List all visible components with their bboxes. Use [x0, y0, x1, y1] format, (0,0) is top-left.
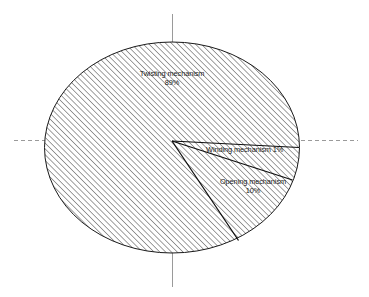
pie-chart-canvas [0, 0, 369, 297]
pie-chart-figure: Twisting mechanism 89% Winding mechanism… [0, 0, 369, 297]
pie-label-opening-name: Opening mechanism [220, 177, 286, 186]
pie-label-opening-mechanism: Opening mechanism 10% [205, 177, 301, 196]
pie-label-opening-value: 10% [205, 186, 301, 195]
pie-label-winding-name: Winding mechanism 1% [206, 145, 283, 154]
pie-label-twisting-name: Twisting mechanism [140, 69, 205, 78]
pie-label-winding-mechanism: Winding mechanism 1% [206, 145, 300, 154]
pie-label-twisting-mechanism: Twisting mechanism 89% [109, 69, 235, 88]
pie-label-twisting-value: 89% [109, 78, 235, 87]
